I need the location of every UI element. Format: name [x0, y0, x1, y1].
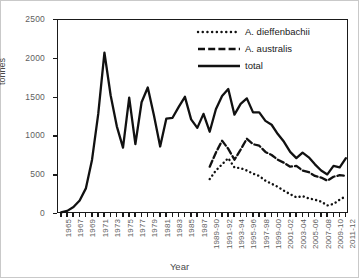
x-axis-tick-mark	[227, 213, 229, 217]
x-axis-tick-mark	[345, 213, 347, 217]
x-axis-tick-mark	[134, 213, 136, 217]
x-axis-tick-mark	[103, 213, 105, 217]
x-axis-tick-mark	[339, 213, 341, 217]
x-axis-tick-mark	[147, 213, 149, 217]
y-axis-tick-label: 500	[30, 169, 45, 179]
x-axis-tick-mark	[159, 213, 161, 217]
solid-line-icon	[196, 61, 242, 71]
y-axis-tick-label: 2500	[25, 14, 45, 24]
x-axis-tick-mark	[233, 213, 235, 217]
x-axis-tick-mark	[271, 213, 273, 217]
x-axis-tick-mark	[258, 213, 260, 217]
chart-legend: A. dieffenbachii A. australis total	[196, 23, 346, 74]
x-axis-tick-mark	[190, 213, 192, 217]
x-axis-tick-mark	[246, 213, 248, 217]
x-axis-tick-label: 2001-02	[286, 219, 295, 249]
y-axis-tick-mark	[53, 97, 57, 98]
x-axis-tick-label: 1999-00	[274, 219, 283, 249]
x-axis-tick-mark	[153, 213, 155, 217]
x-axis-tick-mark	[215, 213, 217, 217]
x-axis-tick-label: 1977	[138, 219, 147, 237]
x-axis-tick-mark	[128, 213, 130, 217]
x-axis-tick-mark	[264, 213, 266, 217]
x-axis-tick-mark	[178, 213, 180, 217]
x-axis-tick-label: 1981	[163, 219, 172, 237]
y-axis-tick-label: 0	[40, 208, 45, 218]
y-axis-tick-label: 2000	[25, 53, 45, 63]
x-axis-tick-label: 1995-96	[249, 219, 258, 249]
x-axis-tick-mark	[333, 213, 335, 217]
x-axis-tick-mark	[165, 213, 167, 217]
x-axis-tick-mark	[184, 213, 186, 217]
x-axis-tick-label: 1979	[150, 219, 159, 237]
x-axis-tick-mark	[203, 213, 205, 217]
y-axis-title: tonnes	[0, 58, 7, 85]
x-axis-tick-label: 1969	[88, 219, 97, 237]
series-line	[210, 158, 346, 205]
x-axis-tick-label: 1967	[76, 219, 85, 237]
x-axis-tick-label: 1985	[187, 219, 196, 237]
x-axis-tick-mark	[289, 213, 291, 217]
y-axis-tick-mark	[53, 19, 57, 20]
legend-item-dieffenbachii: A. dieffenbachii	[196, 23, 346, 40]
y-axis-tick-label: 1000	[25, 130, 45, 140]
x-axis-tick-mark	[240, 213, 242, 217]
x-axis-tick-mark	[302, 213, 304, 217]
x-axis-tick-label: 1987	[200, 219, 209, 237]
chart-figure: tonnes 05001000150020002500 196519671969…	[0, 0, 359, 278]
x-axis-tick-label: 2007-08	[324, 219, 333, 249]
y-axis-tick-mark	[53, 135, 57, 136]
x-axis-tick-mark	[72, 213, 74, 217]
legend-label: A. australis	[245, 43, 292, 54]
y-axis-tick-mark	[53, 58, 57, 59]
x-axis-title: Year	[1, 261, 358, 272]
x-axis-tick-mark	[252, 213, 254, 217]
x-axis-tick-mark	[277, 213, 279, 217]
x-axis-tick-label: 1991-92	[225, 219, 234, 249]
x-axis-tick-mark	[79, 213, 81, 217]
x-axis-tick-mark	[326, 213, 328, 217]
y-axis-tick-mark	[53, 213, 57, 214]
x-axis-tick-label: 1997-98	[262, 219, 271, 249]
x-axis-tick-label: 1975	[126, 219, 135, 237]
x-axis-tick-label: 1983	[175, 219, 184, 237]
x-axis-tick-mark	[60, 213, 62, 217]
x-axis-tick-label: 2005-06	[311, 219, 320, 249]
x-axis-tick-label: 1965	[64, 219, 73, 237]
x-axis-tick-label: 2003-04	[299, 219, 308, 249]
x-axis-tick-mark	[308, 213, 310, 217]
x-axis-tick-mark	[122, 213, 124, 217]
x-axis-tick-label: 2009-10	[336, 219, 345, 249]
x-axis-tick-mark	[97, 213, 99, 217]
series-line	[61, 53, 346, 213]
x-axis-tick-label: 1971	[101, 219, 110, 237]
x-axis-tick-mark	[116, 213, 118, 217]
x-axis-tick-mark	[209, 213, 211, 217]
dashed-line-icon	[196, 44, 242, 54]
y-axis-tick-mark	[53, 174, 57, 175]
x-axis-tick-label: 1973	[113, 219, 122, 237]
x-axis-tick-label: 1993-94	[237, 219, 246, 249]
x-axis-tick-mark	[320, 213, 322, 217]
x-axis-tick-mark	[283, 213, 285, 217]
legend-item-australis: A. australis	[196, 40, 346, 57]
x-axis-tick-mark	[314, 213, 316, 217]
x-axis-tick-mark	[91, 213, 93, 217]
y-axis-tick-label: 1500	[25, 92, 45, 102]
legend-label: total	[245, 60, 263, 71]
x-axis-tick-mark	[295, 213, 297, 217]
x-axis-tick-label: 1989-90	[212, 219, 221, 249]
x-axis-tick-mark	[196, 213, 198, 217]
legend-label: A. dieffenbachii	[245, 26, 310, 37]
x-axis-tick-mark	[172, 213, 174, 217]
x-axis-tick-mark	[110, 213, 112, 217]
x-axis-tick-mark	[221, 213, 223, 217]
x-axis-tick-mark	[66, 213, 68, 217]
legend-item-total: total	[196, 57, 346, 74]
dotted-line-icon	[196, 27, 242, 37]
x-axis-tick-label: 2011-12	[348, 219, 357, 248]
x-axis-tick-mark	[85, 213, 87, 217]
x-axis-tick-mark	[141, 213, 143, 217]
